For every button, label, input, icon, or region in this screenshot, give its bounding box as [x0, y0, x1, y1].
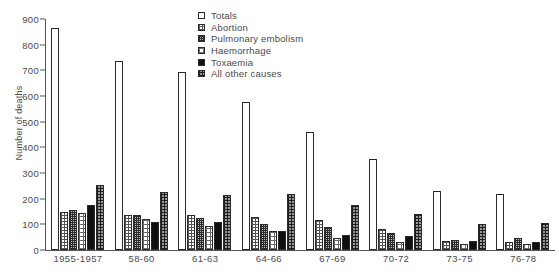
bar: [96, 185, 104, 250]
x-tick-label: 67-69: [319, 253, 345, 264]
legend-swatch-icon: [198, 12, 205, 19]
bar: [496, 194, 504, 250]
bar: [478, 224, 486, 250]
bar: [378, 229, 386, 250]
y-axis-ticks: 0100200300400500600700800900: [0, 0, 46, 279]
x-tick-label: 61-63: [192, 253, 218, 264]
bar: [69, 210, 77, 250]
legend-swatch-icon: [198, 47, 205, 54]
bar: [541, 223, 549, 250]
bar: [251, 217, 259, 250]
x-tick-label: 64-66: [256, 253, 282, 264]
bar-group: [369, 19, 423, 250]
legend-swatch-icon: [198, 24, 205, 31]
x-tick-label: 70-72: [383, 253, 409, 264]
legend-item: Toxaemia: [198, 56, 303, 68]
bar: [151, 222, 159, 250]
legend-label: Totals: [211, 10, 237, 21]
bar: [333, 238, 341, 250]
y-tick-label: 0: [33, 245, 39, 256]
y-tick-label: 600: [22, 91, 39, 102]
bar: [523, 244, 531, 250]
legend-label: Pulmonary embolism: [211, 33, 303, 44]
bar: [178, 72, 186, 250]
legend-label: Haemorrhage: [211, 45, 271, 56]
x-tick-label: 58-60: [128, 253, 154, 264]
bar: [369, 159, 377, 250]
legend-label: Abortion: [211, 22, 248, 33]
bar: [205, 226, 213, 250]
x-axis-labels: 1955-195758-6061-6364-6667-6970-7273-757…: [46, 253, 555, 273]
bar: [133, 215, 141, 250]
bar: [469, 241, 477, 250]
legend-item: Haemorrhage: [198, 45, 303, 57]
legend-swatch-icon: [198, 59, 205, 66]
x-tick-label: 73-75: [447, 253, 473, 264]
legend-swatch-icon: [198, 70, 205, 77]
bar: [242, 102, 250, 250]
x-axis-line: [45, 250, 555, 251]
bar: [278, 231, 286, 250]
bar: [160, 192, 168, 250]
legend-label: Toxaemia: [211, 57, 253, 68]
bar: [51, 28, 59, 250]
bar: [532, 242, 540, 250]
bar: [87, 205, 95, 250]
legend-item: Pulmonary embolism: [198, 33, 303, 45]
bar: [442, 241, 450, 250]
bar-group: [51, 19, 105, 250]
y-tick-label: 700: [22, 65, 39, 76]
bar: [124, 215, 132, 250]
bar: [115, 61, 123, 250]
bar-group: [433, 19, 487, 250]
bar: [414, 214, 422, 250]
bar-group: [115, 19, 169, 250]
y-tick-label: 300: [22, 168, 39, 179]
legend-item: All other causes: [198, 68, 303, 80]
bar: [269, 231, 277, 250]
legend-label: All other causes: [211, 68, 282, 79]
x-tick-label: 1955-1957: [53, 253, 102, 264]
bar: [351, 205, 359, 250]
bar: [60, 212, 68, 251]
y-tick-label: 900: [22, 14, 39, 25]
y-tick-label: 500: [22, 116, 39, 127]
bar: [460, 244, 468, 250]
y-tick-label: 100: [22, 219, 39, 230]
bar: [223, 195, 231, 250]
bar: [214, 222, 222, 250]
bar: [342, 235, 350, 250]
bar: [287, 194, 295, 250]
bar: [387, 233, 395, 250]
y-tick-label: 800: [22, 39, 39, 50]
bar: [187, 215, 195, 250]
bar-chart: Number of deaths 01002003004005006007008…: [0, 0, 559, 279]
bar: [142, 219, 150, 250]
chart-legend: TotalsAbortionPulmonary embolismHaemorrh…: [198, 10, 303, 80]
bar: [315, 220, 323, 250]
legend-item: Abortion: [198, 22, 303, 34]
bar: [324, 227, 332, 250]
bar: [433, 191, 441, 250]
bar: [396, 242, 404, 250]
bar: [260, 224, 268, 250]
bar-group: [306, 19, 360, 250]
bar: [196, 218, 204, 250]
bar: [451, 240, 459, 250]
y-tick-label: 400: [22, 142, 39, 153]
bar-group: [496, 19, 550, 250]
legend-swatch-icon: [198, 35, 205, 42]
bar: [514, 238, 522, 250]
x-tick-label: 76-78: [510, 253, 536, 264]
bar: [505, 242, 513, 250]
bar: [78, 213, 86, 250]
bar: [405, 236, 413, 250]
legend-item: Totals: [198, 10, 303, 22]
y-tick-label: 200: [22, 193, 39, 204]
bar: [306, 132, 314, 250]
